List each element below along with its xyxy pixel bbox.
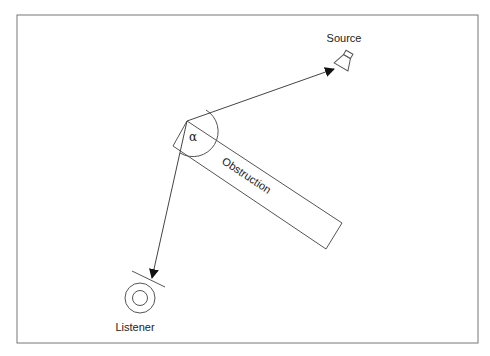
source-label: Source [327,32,362,44]
arrow-to-listener [152,121,187,278]
angle-alpha-label: α [189,130,197,144]
diagram-canvas: Source Listener Obstruction α [0,0,490,356]
listener-label: Listener [115,321,154,333]
listener-icon [125,271,165,313]
arrow-to-source [187,69,334,121]
speaker-icon [334,48,356,71]
